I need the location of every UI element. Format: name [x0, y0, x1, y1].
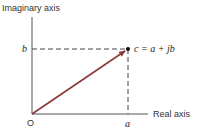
complex-plane-diagram: Imaginary axis Real axis O a b c = a + j… — [0, 0, 200, 137]
point-c — [126, 47, 130, 51]
y-axis-label: Imaginary axis — [2, 3, 61, 13]
a-label: a — [125, 118, 130, 129]
vector-arrow — [32, 51, 125, 114]
b-label: b — [22, 43, 27, 54]
x-axis-label: Real axis — [153, 109, 191, 119]
point-label: c = a + jb — [134, 43, 175, 54]
origin-label: O — [27, 118, 34, 128]
